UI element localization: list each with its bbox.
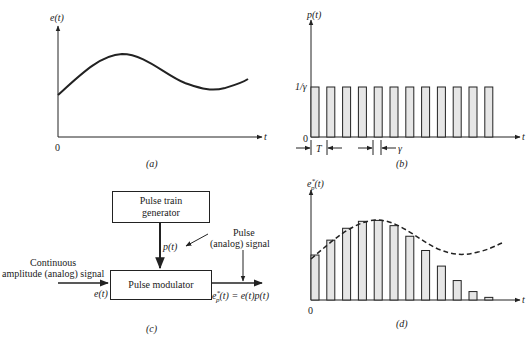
- panel-b-caption: (b): [396, 158, 408, 169]
- panel-d-y-label: e*p(t): [307, 176, 324, 194]
- modulated-pulse: [485, 297, 493, 300]
- pulse: [343, 87, 351, 137]
- modulated-pulse: [453, 281, 461, 300]
- panel-b-pulses: [311, 87, 493, 137]
- panel-b-y-label: p(t): [307, 9, 321, 20]
- modulated-pulse: [437, 266, 445, 300]
- panel-d-modulated-pulses: [311, 220, 493, 300]
- modulated-pulse: [343, 228, 351, 300]
- panel-b-dimension-arrows: [296, 140, 396, 155]
- pulse: [469, 87, 477, 137]
- modulated-pulse: [390, 226, 398, 300]
- panel-c-caption: (c): [146, 323, 157, 334]
- modulated-pulse: [374, 220, 382, 300]
- pulse: [311, 87, 319, 137]
- input-label-line1: Continuous: [30, 257, 76, 268]
- generator-label-line1: Pulse train: [140, 195, 183, 207]
- panel-d-x-label: t: [522, 294, 525, 305]
- input-signal-label: e(t): [94, 288, 108, 299]
- panel-a-signal-curve: [58, 54, 248, 95]
- modulated-pulse: [406, 236, 414, 300]
- input-label-line2: amplitude (analog) signal: [2, 268, 104, 279]
- pulse: [437, 87, 445, 137]
- output-equation: e*p(t) = e(t)p(t): [212, 288, 269, 306]
- modulated-pulse: [327, 240, 335, 300]
- panel-b-level-label: 1/γ: [295, 81, 307, 92]
- pulse: [327, 87, 335, 137]
- pulse: [485, 87, 493, 137]
- pulse: [406, 87, 414, 137]
- panel-a-axes: [58, 26, 262, 137]
- modulated-pulse: [469, 292, 477, 300]
- pulse: [390, 87, 398, 137]
- modulated-pulse: [358, 221, 366, 300]
- panel-a-caption: (a): [146, 158, 158, 169]
- pulse-modulator-block: Pulse modulator: [110, 270, 212, 300]
- panel-a-origin: 0: [55, 142, 60, 153]
- pulse-signal-label: p(t): [163, 241, 177, 252]
- panel-b-x-label: t: [522, 131, 525, 142]
- panel-b-origin: 0: [303, 133, 308, 144]
- modulated-pulse: [311, 255, 319, 300]
- panel-b-width-label: γ: [398, 143, 402, 154]
- output-label-line2: (analog) signal: [210, 238, 270, 249]
- pulse: [422, 87, 430, 137]
- pulse: [358, 87, 366, 137]
- panel-b-period-label: T: [316, 143, 322, 154]
- pulse-train-generator-block: Pulse train generator: [112, 191, 210, 223]
- generator-label-line2: generator: [140, 207, 183, 219]
- panel-a-x-label: t: [264, 131, 267, 142]
- panel-d-origin: 0: [308, 305, 313, 316]
- pulse: [453, 87, 461, 137]
- panel-a-y-label: e(t): [50, 12, 64, 23]
- panel-d-caption: (d): [396, 318, 408, 329]
- modulated-pulse: [422, 250, 430, 300]
- output-label-line1: Pulse: [233, 227, 255, 238]
- pulse: [374, 87, 382, 137]
